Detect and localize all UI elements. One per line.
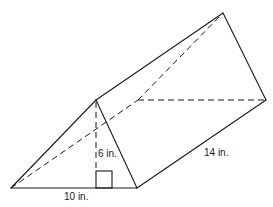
prism-drawing (0, 0, 273, 207)
front-right-edge (96, 100, 137, 188)
hidden-bottom-left-length-edge (11, 100, 138, 188)
front-left-edge (11, 100, 96, 188)
base-label: 10 in. (64, 192, 88, 202)
hidden-back-left-edge (138, 13, 223, 100)
bottom-right-length-edge (137, 100, 266, 188)
right-angle-marker (96, 171, 112, 188)
top-ridge-edge (96, 13, 223, 100)
prism-diagram: 6 in. 10 in. 14 in. (0, 0, 273, 207)
back-right-edge (223, 13, 266, 100)
height-label: 6 in. (98, 149, 117, 159)
length-label: 14 in. (204, 148, 228, 158)
